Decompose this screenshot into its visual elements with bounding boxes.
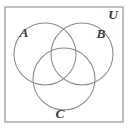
venn-diagram-figure: U A B C bbox=[0, 0, 132, 132]
set-label-b: B bbox=[95, 26, 105, 41]
set-label-c: C bbox=[55, 106, 65, 121]
venn-diagram-svg: U A B C bbox=[0, 0, 132, 132]
universal-set-label: U bbox=[108, 7, 119, 22]
set-label-a: A bbox=[18, 25, 28, 40]
